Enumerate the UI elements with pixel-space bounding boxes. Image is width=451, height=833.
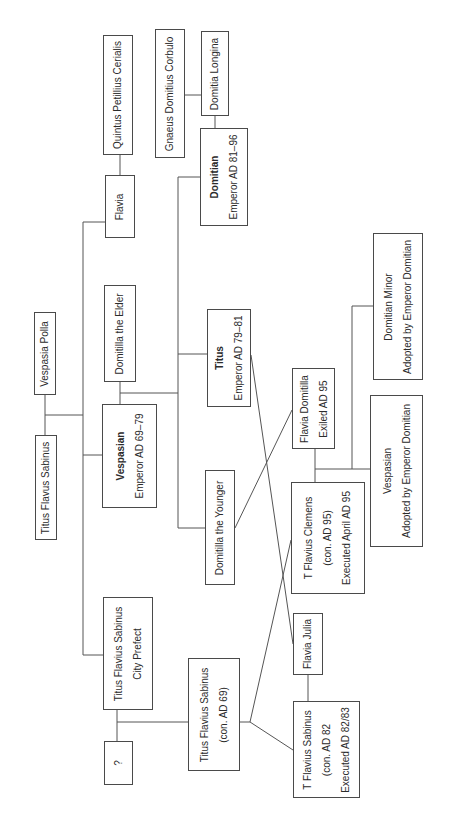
node-label: Flavia: [115, 193, 125, 220]
node-name: Vespasian: [115, 413, 125, 498]
node-gnaeus-domitius-corbulo: Gnaeus Domitius Corbulo: [155, 29, 185, 158]
node-vespasia-polla: Vespasia Polla: [34, 312, 56, 395]
node-t-flavius-sabinus-con-82: T Flavius Sabinus (con. AD 82 Executed A…: [293, 701, 360, 798]
node-t-flavius-clemens: T Flavius Clemens (con. AD 95) Executed …: [291, 482, 365, 594]
node-domitilla-the-elder: Domitilla the Elder: [104, 285, 136, 382]
node-label: Domitilla the Elder: [115, 293, 125, 374]
node-domitilla-the-younger: Domitilla the Younger: [205, 470, 235, 585]
node-name: T Flavius Sabinus: [303, 707, 313, 793]
node-name: Domitian: [210, 134, 220, 219]
node-titus-flavius-sabinus-con-69: Titus Flavius Sabinus (con. AD 69): [188, 658, 240, 771]
node-domitia-longina: Domitia Longina: [201, 31, 229, 116]
node-name: Titus Flavius Sabinus: [200, 667, 210, 762]
node-label: Gnaeus Domitius Corbulo: [165, 36, 175, 151]
node-label: Quintus Petillius Cerialis: [113, 41, 123, 149]
node-detail: Executed AD 82/83: [341, 707, 351, 793]
node-label: Domitia Longina: [210, 37, 220, 109]
family-tree-diagram: Quintus Petillius Cerialis Flavia Gnaeus…: [0, 0, 451, 833]
node-detail: City Prefect: [133, 606, 143, 701]
node-titus-flavius-sabinus-city-prefect: Titus Flavius Sabinus City Prefect: [103, 597, 153, 710]
node-detail: (con. AD 95): [323, 491, 333, 585]
node-vespasian: Vespasian Emperor AD 69–79: [102, 404, 157, 508]
node-name: Flavia Domitilla: [299, 375, 309, 443]
node-label: Vespasia Polla: [40, 321, 50, 387]
node-label: Domitilla the Younger: [215, 480, 225, 575]
node-detail: (con. AD 69): [219, 667, 229, 762]
node-flavia-julia: Flavia Julia: [293, 613, 323, 675]
node-detail: (con. AD 82: [322, 707, 332, 793]
node-titus: Titus Emperor AD 79–81: [207, 309, 251, 407]
node-detail: Emperor AD 79–81: [234, 315, 244, 400]
node-vespasian-adopted: Vespasian Adopted by Emperor Domitian: [370, 395, 423, 547]
node-flavia-domitilla: Flavia Domitilla Exiled AD 95: [292, 368, 335, 449]
node-label: Titus Flavus Sabinus: [41, 441, 51, 533]
node-detail: Emperor AD 69–79: [134, 413, 144, 498]
node-name: Titus: [215, 315, 225, 400]
node-detail: Exiled AD 95: [318, 375, 328, 443]
node-domitian: Domitian Emperor AD 81–96: [200, 128, 248, 226]
node-detail: Adopted by Emperor Domitian: [401, 404, 411, 538]
node-domitian-minor: Domitian Minor Adopted by Emperor Domiti…: [373, 233, 423, 380]
node-detail: Executed April AD 95: [342, 491, 352, 585]
node-label: ?: [114, 760, 124, 766]
node-quintus-petillius-cerialis: Quintus Petillius Cerialis: [103, 35, 133, 155]
node-unknown: ?: [104, 741, 133, 785]
node-detail: Emperor AD 81–96: [229, 134, 239, 219]
node-name: Domitian Minor: [384, 240, 394, 374]
node-name: Titus Flavius Sabinus: [114, 606, 124, 701]
node-name: T Flavius Clemens: [304, 491, 314, 585]
node-titus-flavus-sabinus: Titus Flavus Sabinus: [35, 435, 57, 540]
node-name: Vespasian: [382, 404, 392, 538]
node-detail: Adopted by Emperor Domitian: [403, 240, 413, 374]
node-flavia: Flavia: [105, 175, 135, 238]
node-label: Flavia Julia: [303, 619, 313, 669]
